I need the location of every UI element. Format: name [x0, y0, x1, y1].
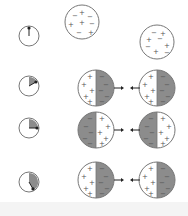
minus-sign: −	[160, 190, 166, 198]
plus-sign: +	[87, 165, 93, 173]
force-arrows	[114, 128, 140, 132]
plus-sign: +	[87, 190, 93, 198]
plus-sign: +	[88, 29, 94, 37]
clock-icon	[19, 172, 39, 192]
minus-sign: −	[160, 165, 166, 173]
neutral-sphere: −++−−++−	[140, 25, 174, 59]
minus-sign: −	[164, 173, 170, 181]
minus-sign: −	[165, 185, 171, 193]
plus-sign: +	[148, 165, 154, 173]
clock-icon	[19, 26, 39, 46]
minus-sign: −	[145, 43, 151, 51]
minus-sign: −	[87, 115, 93, 123]
plus-sign: +	[81, 81, 87, 89]
clock-icon	[19, 76, 39, 96]
polarized-sphere-right: +++++−−−−−	[139, 112, 175, 148]
plus-sign: +	[148, 190, 154, 198]
minus-sign: −	[87, 140, 93, 148]
polarized-sphere-left: +++++−−−−−	[78, 70, 114, 106]
plus-sign: +	[99, 140, 105, 148]
polarized-sphere-right: +++++−−−−−	[139, 70, 175, 106]
minus-sign: −	[103, 81, 109, 89]
minus-sign: −	[160, 98, 166, 106]
polarized-sphere-left: +++++−−−−−	[78, 162, 114, 198]
minus-sign: −	[99, 165, 105, 173]
minus-sign: −	[99, 73, 105, 81]
minus-sign: −	[165, 93, 171, 101]
plus-sign: +	[99, 115, 105, 123]
plus-sign: +	[87, 73, 93, 81]
neutral-sphere: −+−++−−+	[65, 5, 99, 39]
minus-sign: −	[164, 49, 170, 57]
polarized-sphere-right: +++++−−−−−	[139, 162, 175, 198]
minus-sign: −	[99, 190, 105, 198]
minus-sign: −	[76, 29, 82, 37]
plus-sign: +	[87, 98, 93, 106]
minus-sign: −	[104, 93, 110, 101]
plus-sign: +	[79, 9, 85, 17]
minus-sign: −	[148, 140, 154, 148]
minus-sign: −	[72, 12, 78, 20]
plus-sign: +	[142, 173, 148, 181]
plus-sign: +	[105, 123, 111, 131]
plus-sign: +	[79, 19, 85, 27]
plus-sign: +	[142, 81, 148, 89]
plus-sign: +	[68, 21, 74, 29]
minus-sign: −	[157, 35, 163, 43]
plus-sign: +	[81, 173, 87, 181]
minus-sign: −	[103, 173, 109, 181]
minus-sign: −	[148, 115, 154, 123]
force-arrows	[114, 178, 140, 182]
minus-sign: −	[160, 73, 166, 81]
force-arrows	[114, 86, 140, 90]
plus-sign: +	[148, 98, 154, 106]
plus-sign: +	[150, 179, 156, 187]
minus-sign: −	[89, 20, 95, 28]
minus-sign: −	[104, 185, 110, 193]
plus-sign: +	[160, 115, 166, 123]
plus-sign: +	[150, 87, 156, 95]
minus-sign: −	[149, 129, 155, 137]
minus-sign: −	[99, 98, 105, 106]
clock-icon	[19, 118, 39, 138]
plus-sign: +	[89, 87, 95, 95]
plus-sign: +	[89, 179, 95, 187]
polarized-sphere-left: +++++−−−−−	[78, 112, 114, 148]
charge-diagram: −+−++−−+−++−−++−+++++−−−−−+++++−−−−−++++…	[0, 0, 188, 216]
bottom-strip	[0, 202, 188, 216]
minus-sign: −	[88, 129, 94, 137]
plus-sign: +	[148, 73, 154, 81]
minus-sign: −	[164, 81, 170, 89]
plus-sign: +	[160, 140, 166, 148]
plus-sign: +	[153, 48, 159, 56]
plus-sign: +	[166, 123, 172, 131]
